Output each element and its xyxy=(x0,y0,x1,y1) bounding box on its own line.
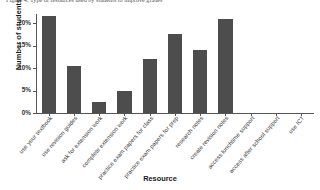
bar-slot xyxy=(188,14,213,113)
bar-chart-figure: Figure 4: Type of resources used by stud… xyxy=(0,0,320,190)
bar xyxy=(92,102,106,113)
y-tick-label: 0% xyxy=(22,109,31,116)
bar xyxy=(67,66,81,113)
x-category-label: use ICT xyxy=(288,115,306,135)
x-label-slot: access after school support xyxy=(263,114,288,172)
bar xyxy=(218,19,232,114)
x-label-slot: use ICT xyxy=(289,114,314,172)
bar xyxy=(143,59,157,113)
x-axis-title: Resource xyxy=(0,174,320,183)
bar xyxy=(117,91,131,114)
bar-slot xyxy=(263,14,288,113)
bar-slot xyxy=(87,14,112,113)
x-axis-category-labels: use your textbookuse revision guidesask … xyxy=(36,114,314,172)
bar xyxy=(168,34,182,113)
bar-series xyxy=(36,14,314,113)
plot-area: 0%5%10%15%20% xyxy=(36,14,314,113)
bar-slot xyxy=(289,14,314,113)
bar-slot xyxy=(137,14,162,113)
bar-slot xyxy=(162,14,187,113)
bar-slot xyxy=(36,14,61,113)
bar-slot xyxy=(112,14,137,113)
y-tick-label: 5% xyxy=(22,86,31,93)
chart-title: Figure 4: Type of resources used by stud… xyxy=(6,0,316,4)
bar-slot xyxy=(61,14,86,113)
bar-slot xyxy=(238,14,263,113)
bar xyxy=(193,50,207,113)
bar-slot xyxy=(213,14,238,113)
y-tick-label: 15% xyxy=(18,41,31,48)
y-tick-label: 10% xyxy=(18,64,31,71)
y-tick-label: 20% xyxy=(18,19,31,26)
bar xyxy=(42,16,56,113)
